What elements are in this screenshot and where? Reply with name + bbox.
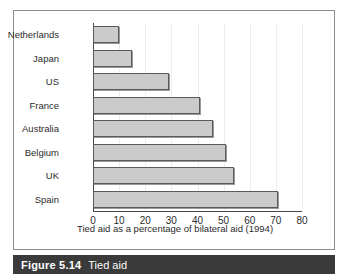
bar-row [93,94,200,118]
bar-row [93,70,169,94]
category-label: Australia [0,117,59,141]
bar [93,144,226,161]
category-label: Netherlands [0,23,59,47]
figure-number-label: Figure 5.14 [21,259,81,271]
bar [93,50,132,67]
bar-row [93,164,234,188]
category-label: US [0,70,59,94]
chart-frame: 01020304050607080 NetherlandsJapanUSFran… [13,10,335,250]
category-label: Japan [0,47,59,71]
category-label: France [0,94,59,118]
figure-caption-bar: Figure 5.14 Tied aid [13,255,335,274]
plot-area: 01020304050607080 [93,23,302,211]
category-label: Belgium [0,141,59,165]
x-axis-line [93,211,302,212]
bar [93,73,169,90]
gridline [276,23,277,211]
bar [93,191,278,208]
bar-row [93,47,132,71]
bar-row [93,23,119,47]
figure-title-label: Tied aid [88,259,127,271]
gridline [302,23,303,211]
bar [93,97,200,114]
bar [93,120,213,137]
bar [93,26,119,43]
figure-container: 01020304050607080 NetherlandsJapanUSFran… [0,0,350,280]
bar-row [93,117,213,141]
bar-row [93,188,278,212]
category-label: Spain [0,188,59,212]
category-label: UK [0,164,59,188]
x-axis-caption: Tied aid as a percentage of bilateral ai… [14,223,336,234]
bar [93,167,234,184]
bar-row [93,141,226,165]
gridline [250,23,251,211]
